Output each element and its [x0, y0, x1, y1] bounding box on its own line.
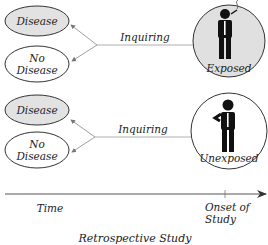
no-disease-label-2a: No — [5, 138, 69, 150]
inquiring-label-1: Inquiring — [118, 31, 172, 43]
inquiring-label-2: Inquiring — [116, 123, 170, 135]
no-disease-label-2b: Disease — [5, 150, 69, 162]
onset-label-a: Onset of — [205, 201, 255, 213]
arrow-to-disease-2 — [71, 120, 95, 137]
arrow-to-disease-1 — [71, 25, 97, 45]
exposed-label: Exposed — [196, 62, 262, 74]
onset-label-b: Study — [205, 213, 255, 225]
no-disease-label-1b: Disease — [5, 64, 69, 76]
time-label: Time — [30, 202, 70, 214]
diagram-title: Retrospective Study — [70, 233, 200, 245]
arrow-to-no-disease-1 — [72, 45, 97, 61]
disease-label-1: Disease — [5, 15, 69, 27]
disease-label-2: Disease — [5, 104, 69, 116]
unexposed-label: Unexposed — [193, 152, 265, 164]
arrow-to-no-disease-2 — [72, 137, 95, 152]
no-disease-label-1a: No — [5, 52, 69, 64]
